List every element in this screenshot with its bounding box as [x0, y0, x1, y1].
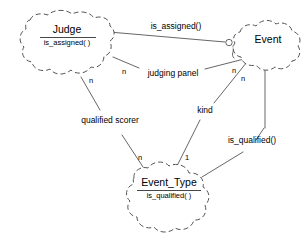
entity-judge[interactable]: Judge is_assigned( )	[20, 10, 114, 74]
cardinality-kind-event-type: 1	[185, 153, 189, 162]
cardinality-judging-panel-event: n	[232, 66, 236, 75]
event-blob-outline	[233, 20, 300, 70]
label-judging-panel: judging panel	[147, 68, 199, 78]
cardinality-qualified-scorer-judge: n	[89, 76, 93, 85]
is-assigned-role-circle	[226, 39, 232, 45]
is-qualified-line-lower	[202, 152, 243, 177]
judge-name: Judge	[53, 23, 82, 35]
label-kind: kind	[197, 105, 213, 115]
er-diagram-canvas: Judge is_assigned( ) Event Event_Type is…	[0, 0, 308, 239]
event-type-method: is_qualified( )	[147, 191, 192, 200]
cardinality-kind-event: n	[241, 74, 245, 83]
label-is-qualified: is_qualified()	[228, 135, 276, 145]
diagram-svg: Judge is_assigned( ) Event Event_Type is…	[0, 0, 308, 239]
label-is-assigned: is_assigned()	[151, 21, 202, 31]
relationship-is-assigned[interactable]	[109, 32, 234, 58]
judging-panel-line-right	[205, 58, 248, 69]
event-name: Event	[255, 33, 282, 45]
entity-event[interactable]: Event	[233, 20, 300, 70]
cardinality-qualified-scorer-event-type: n	[138, 153, 142, 162]
cardinality-judging-panel-judge: n	[122, 67, 126, 76]
entity-event-type[interactable]: Event_Type is_qualified( )	[127, 162, 209, 232]
event-type-name: Event_Type	[141, 176, 197, 188]
is-assigned-line-left	[109, 32, 225, 42]
judge-method: is_assigned( )	[44, 38, 91, 47]
label-qualified-scorer: qualified scorer	[81, 115, 139, 125]
